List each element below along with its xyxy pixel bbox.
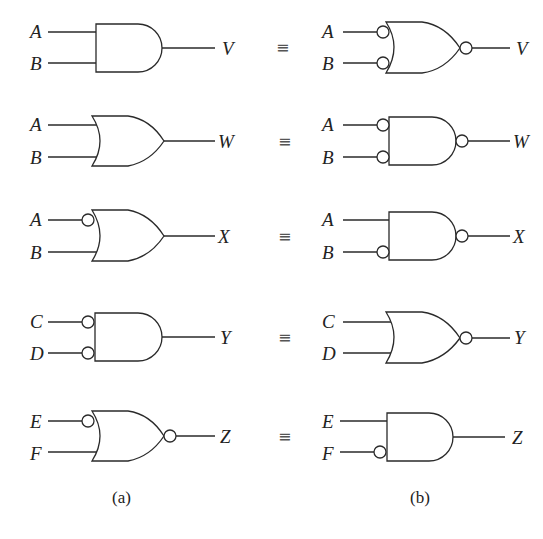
inversion-bubble-input-f	[374, 446, 386, 458]
input-label-b: B	[30, 242, 42, 263]
row-1-left-and-gate: A B V	[28, 21, 236, 74]
row-2-left-or-gate: A B W	[28, 114, 236, 168]
row-3-left-or-gate: A B X	[28, 209, 231, 263]
input-label-b: B	[322, 242, 334, 263]
row-3-right-nand-gate: A B X	[320, 209, 526, 263]
equivalence-sign: ≡	[276, 38, 289, 57]
input-label-a: A	[28, 114, 42, 135]
output-label-y: Y	[514, 327, 527, 348]
row-5: E F Z ≡ E F Z	[29, 411, 523, 464]
or-gate-symbol	[386, 312, 460, 363]
inversion-bubble-output	[456, 230, 468, 242]
output-label-v: V	[516, 38, 530, 59]
input-label-b: B	[30, 147, 42, 168]
and-gate-symbol	[387, 413, 453, 461]
output-label-v: V	[222, 38, 236, 59]
input-label-b: B	[322, 53, 334, 74]
input-label-a: A	[320, 21, 334, 42]
equivalence-sign: ≡	[278, 328, 291, 347]
equivalence-sign: ≡	[278, 227, 291, 246]
row-1-right-nor-gate: A B V	[320, 21, 530, 74]
and-gate-symbol	[96, 24, 162, 72]
equivalence-sign: ≡	[278, 427, 291, 446]
or-gate-symbol	[92, 411, 164, 461]
inversion-bubble-input-a	[377, 26, 389, 38]
output-label-z: Z	[220, 426, 231, 447]
caption-a: (a)	[112, 488, 131, 507]
input-label-b: B	[30, 53, 42, 74]
logic-gate-equivalence-diagram: A B V ≡ A B V A B	[0, 0, 543, 539]
and-gate-symbol	[389, 212, 456, 260]
caption-b: (b)	[410, 488, 430, 507]
inversion-bubble-input-a	[377, 119, 389, 131]
input-label-a: A	[28, 21, 42, 42]
inversion-bubble-input-b	[377, 246, 389, 258]
inversion-bubble-output	[456, 135, 468, 147]
input-label-a: A	[320, 209, 334, 230]
output-label-x: X	[217, 226, 231, 247]
equivalence-sign: ≡	[278, 132, 291, 151]
row-4-left-and-gate: C D Y	[29, 311, 233, 364]
row-2-right-nand-gate: A B W	[320, 114, 531, 168]
row-1: A B V ≡ A B V	[28, 21, 530, 74]
and-gate-symbol	[389, 117, 456, 165]
inversion-bubble-output	[460, 42, 472, 54]
output-label-y: Y	[220, 327, 233, 348]
input-label-b: B	[322, 147, 334, 168]
input-label-e: E	[321, 411, 334, 432]
row-3: A B X ≡ A B X	[28, 209, 526, 263]
output-label-w: W	[513, 131, 531, 152]
input-label-c: C	[322, 311, 335, 332]
inversion-bubble-input-e	[82, 415, 94, 427]
inversion-bubble-input-b	[377, 151, 389, 163]
input-label-a: A	[320, 114, 334, 135]
or-gate-symbol	[386, 22, 460, 73]
input-label-d: D	[321, 343, 336, 364]
and-gate-symbol	[95, 313, 162, 361]
or-gate-symbol	[92, 116, 164, 166]
input-label-d: D	[29, 343, 44, 364]
input-label-f: F	[29, 443, 42, 464]
input-label-e: E	[29, 411, 42, 432]
inversion-bubble-input-d	[82, 347, 94, 359]
row-4: C D Y ≡ C D Y	[29, 311, 527, 364]
inversion-bubble-input-c	[82, 316, 94, 328]
row-5-left-nor-gate: E F Z	[29, 411, 231, 464]
inversion-bubble-output	[164, 430, 176, 442]
row-4-right-nor-gate: C D Y	[321, 311, 527, 364]
input-label-c: C	[30, 311, 43, 332]
or-gate-symbol	[92, 210, 164, 261]
row-5-right-and-gate: E F Z	[321, 411, 523, 464]
inversion-bubble-output	[460, 332, 472, 344]
output-label-x: X	[512, 226, 526, 247]
inversion-bubble-input-a	[82, 214, 94, 226]
input-label-a: A	[28, 209, 42, 230]
row-2: A B W ≡ A B W	[28, 114, 531, 168]
output-label-z: Z	[512, 427, 523, 448]
input-label-f: F	[321, 443, 334, 464]
inversion-bubble-input-b	[377, 57, 389, 69]
output-label-w: W	[218, 131, 236, 152]
